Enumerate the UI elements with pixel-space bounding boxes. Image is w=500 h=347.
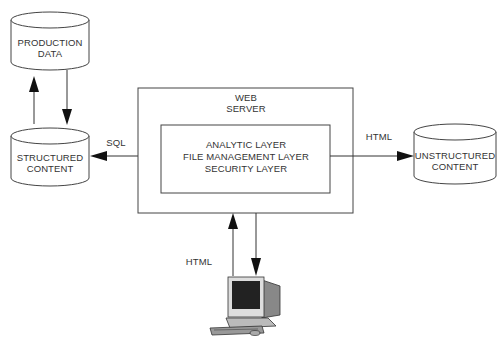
production-data-label-2: DATA <box>38 48 63 59</box>
sql-label: SQL <box>106 137 125 148</box>
diagram-canvas: PRODUCTION DATA STRUCTURED CONTENT SQL W… <box>0 0 500 347</box>
html-bottom-label: HTML <box>186 256 212 267</box>
client-server-arrows: HTML <box>186 213 261 276</box>
production-data-label-1: PRODUCTION <box>18 37 83 48</box>
unstructured-content-label-2: CONTENT <box>432 161 479 172</box>
file-management-layer-label: FILE MANAGEMENT LAYER <box>183 151 309 162</box>
web-server-label-2: SERVER <box>226 103 266 114</box>
arrow-up-head <box>29 76 39 92</box>
arrow-down-head <box>62 109 72 125</box>
structured-content-label-2: CONTENT <box>27 163 74 174</box>
security-layer-label: SECURITY LAYER <box>205 163 287 174</box>
layers-box: ANALYTIC LAYER FILE MANAGEMENT LAYER SEC… <box>161 125 330 193</box>
html-right-label: HTML <box>366 131 392 142</box>
production-data-cylinder: PRODUCTION DATA <box>11 12 89 70</box>
unstructured-content-label-1: UNSTRUCTURED <box>415 150 495 161</box>
structured-content-cylinder: STRUCTURED CONTENT <box>11 128 89 186</box>
desktop-computer-icon <box>210 277 280 336</box>
analytic-layer-label: ANALYTIC LAYER <box>206 139 286 150</box>
production-structured-arrows <box>29 70 72 125</box>
unstructured-content-cylinder: UNSTRUCTURED CONTENT <box>414 124 496 184</box>
structured-content-label-1: STRUCTURED <box>17 152 83 163</box>
web-server-label-1: WEB <box>235 92 257 103</box>
